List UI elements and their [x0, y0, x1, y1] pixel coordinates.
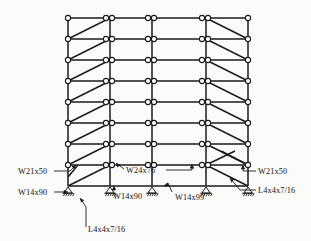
- joint: [109, 99, 114, 104]
- joint: [205, 57, 210, 62]
- label-column-center-2: W14x90: [113, 192, 142, 201]
- joint: [151, 78, 156, 83]
- label-beam-left: W21x50: [18, 167, 47, 176]
- joint: [65, 162, 70, 167]
- brace-left-story-5: [68, 81, 110, 102]
- joint: [145, 15, 150, 20]
- joint: [65, 36, 70, 41]
- joint: [65, 57, 70, 62]
- joint: [109, 141, 114, 146]
- brace-left-story-4: [68, 102, 110, 123]
- joint: [205, 78, 210, 83]
- joint: [205, 162, 210, 167]
- brace-right-story-3: [206, 123, 248, 144]
- label-column-center-3: W14x99: [175, 193, 204, 202]
- joint: [245, 78, 250, 83]
- pinned-support-3: [146, 187, 158, 196]
- joint: [103, 120, 108, 125]
- structural-frame-figure: W21x50 W14x90 W24x76 W14x90 W14x99 L4x4x…: [0, 0, 311, 241]
- brace-left-story-3: [68, 123, 110, 144]
- joint: [103, 57, 108, 62]
- brace-left-story-7: [68, 39, 110, 60]
- joint: [103, 78, 108, 83]
- joint: [199, 162, 204, 167]
- joint: [245, 99, 250, 104]
- joint: [245, 15, 250, 20]
- joint: [65, 78, 70, 83]
- arrowhead-angle-bot: [80, 198, 84, 203]
- joint: [199, 57, 204, 62]
- joint: [65, 15, 70, 20]
- joint: [65, 120, 70, 125]
- joint: [145, 99, 150, 104]
- brace-right-story-4: [206, 102, 248, 123]
- brace-left-story-8: [68, 18, 110, 39]
- joint: [205, 99, 210, 104]
- joint: [151, 141, 156, 146]
- brace-right-story-8: [206, 18, 248, 39]
- joint: [109, 78, 114, 83]
- joint: [109, 36, 114, 41]
- joint: [109, 57, 114, 62]
- joint: [245, 162, 250, 167]
- beams: [68, 18, 248, 186]
- joint: [151, 15, 156, 20]
- joint: [151, 99, 156, 104]
- label-beam-center: W24x76: [126, 166, 155, 175]
- joints: [65, 15, 250, 167]
- joint: [205, 36, 210, 41]
- joint: [245, 36, 250, 41]
- brace-right-story-1-b: [206, 151, 235, 165]
- joint: [199, 99, 204, 104]
- leader-w14-c3: [168, 183, 172, 192]
- joint: [145, 57, 150, 62]
- joint: [151, 120, 156, 125]
- right-bay-braces: [206, 18, 248, 165]
- label-beam-right: W21x50: [258, 167, 287, 176]
- joint: [151, 36, 156, 41]
- brace-left-story-2: [68, 144, 110, 165]
- joint: [199, 15, 204, 20]
- supports: [62, 187, 254, 196]
- brace-right-story-5: [206, 81, 248, 102]
- joint: [103, 36, 108, 41]
- joint: [245, 57, 250, 62]
- brace-right-story-6: [206, 60, 248, 81]
- label-brace-right: L4x4x7/16: [258, 186, 295, 195]
- joint: [151, 57, 156, 62]
- joint: [199, 36, 204, 41]
- joint: [145, 36, 150, 41]
- joint: [199, 120, 204, 125]
- joint: [109, 120, 114, 125]
- brace-left-story-6: [68, 60, 110, 81]
- label-brace-bottom: L4x4x7/16: [88, 225, 125, 234]
- joint: [145, 78, 150, 83]
- joint: [103, 15, 108, 20]
- joint: [199, 78, 204, 83]
- joint: [245, 120, 250, 125]
- joint: [145, 120, 150, 125]
- joint: [145, 141, 150, 146]
- joint: [103, 99, 108, 104]
- joint: [205, 120, 210, 125]
- brace-right-story-7: [206, 39, 248, 60]
- joint: [109, 162, 114, 167]
- joint: [109, 15, 114, 20]
- joint: [245, 141, 250, 146]
- joint: [103, 162, 108, 167]
- joint: [205, 15, 210, 20]
- joint: [199, 141, 204, 146]
- label-column-left: W14x90: [18, 188, 47, 197]
- joint: [205, 141, 210, 146]
- joint: [65, 99, 70, 104]
- joint: [65, 141, 70, 146]
- brace-right-story-1-c: [221, 151, 248, 165]
- frame-elevation-drawing: [0, 0, 311, 241]
- joint: [103, 141, 108, 146]
- pinned-support-5: [242, 187, 254, 196]
